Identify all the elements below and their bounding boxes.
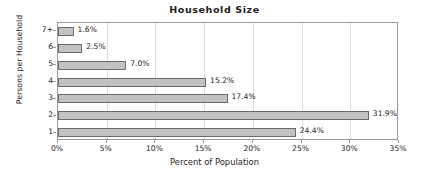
y-axis-tick-label: 3 [3,93,53,102]
bar-value-label: 31.9% [373,109,397,118]
bar-row: 1.6% [58,23,397,40]
x-axis-tick-label: 10% [134,144,174,153]
bar-value-label: 2.5% [86,42,105,51]
x-axis-tick-label: 15% [183,144,223,153]
y-axis-tick-labels: 7+654321 [0,22,53,140]
bar[interactable] [58,94,228,103]
bar-value-label: 15.2% [210,76,234,85]
x-axis-tick-label: 0% [37,144,77,153]
y-axis-tick-label: 4 [3,76,53,85]
bar-row: 24.4% [58,124,397,140]
x-axis-tick-mark [349,140,350,143]
y-axis-tick-mark [53,30,56,31]
y-axis-tick-label: 5 [3,59,53,68]
bar-row: 7.0% [58,57,397,74]
bar[interactable] [58,27,74,36]
y-axis-tick-label: 7+ [3,25,53,34]
x-axis-tick-label: 5% [86,144,126,153]
x-axis-tick-mark [57,140,58,143]
x-axis-tick-mark [301,140,302,143]
bar-value-label: 24.4% [300,126,324,135]
x-axis-tick-label: 25% [281,144,321,153]
bar-value-label: 7.0% [130,59,149,68]
y-axis-tick-mark [53,64,56,65]
bar-row: 2.5% [58,40,397,57]
x-axis-title: Percent of Population [0,157,429,167]
y-axis-tick-mark [53,132,56,133]
bar-row: 15.2% [58,74,397,91]
x-axis-tick-label: 20% [232,144,272,153]
y-axis-tick-mark [53,98,56,99]
chart-title: Household Size [0,4,429,15]
bar[interactable] [58,61,126,70]
bar[interactable] [58,111,369,120]
x-axis-tick-mark [398,140,399,143]
y-axis-tick-label: 6 [3,42,53,51]
bar-value-label: 17.4% [232,92,256,101]
x-axis-tick-mark [252,140,253,143]
bar[interactable] [58,78,206,87]
x-axis-tick-mark [106,140,107,143]
y-axis-tick-label: 2 [3,110,53,119]
x-axis-tick-labels: 0%5%10%15%20%25%30%35% [0,140,429,156]
bar-row: 17.4% [58,90,397,107]
bar[interactable] [58,128,296,137]
y-axis-tick-mark [53,81,56,82]
y-axis-tick-mark [53,115,56,116]
bar[interactable] [58,44,82,53]
x-axis-tick-mark [203,140,204,143]
household-size-bar-chart: Household Size Persons per Household 7+6… [0,0,429,176]
x-axis-tick-label: 30% [329,144,369,153]
bar-row: 31.9% [58,107,397,124]
x-axis-tick-mark [154,140,155,143]
y-axis-tick-mark [53,47,56,48]
plot-area: 24.4%31.9%17.4%15.2%7.0%2.5%1.6% [57,22,398,140]
bar-value-label: 1.6% [78,25,97,34]
x-axis-tick-label: 35% [378,144,418,153]
y-axis-tick-label: 1 [3,127,53,136]
